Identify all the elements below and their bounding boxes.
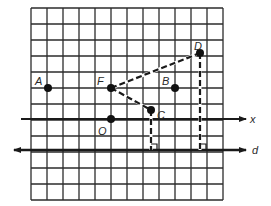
grid [31,8,223,200]
point-label-F: F [97,75,105,87]
point-label-A: A [34,75,42,87]
coordinate-diagram: AFBDOCxd [0,0,271,206]
point-label-C: C [157,109,165,121]
segment-FD [111,53,200,88]
point-label-D: D [194,40,202,52]
point-F [107,84,115,92]
point-C [147,106,155,114]
line-d-label: d [252,144,259,156]
point-B [171,84,179,92]
point-label-B: B [162,75,169,87]
point-A [44,84,52,92]
point-label-O: O [98,125,107,137]
labels: AFBDOCxd [34,40,259,156]
point-O [107,115,115,123]
x-axis-label: x [249,113,256,125]
lines [14,119,246,150]
